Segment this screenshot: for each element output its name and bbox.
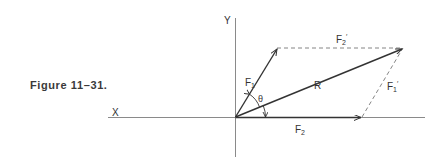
r-label: R [314,80,321,91]
parallelogram-diagram: X Y F1 F2 R F2′ F1′ θ [0,0,447,161]
vector-f1 [236,49,278,117]
x-axis-label: X [112,107,119,118]
angle-arc-r-f2 [263,106,265,117]
y-axis-label: Y [224,15,231,26]
f2-prime-label: F2′ [336,33,348,46]
theta-label: θ [258,94,263,104]
f2-label: F2 [295,124,305,136]
f1-prime-label: F1′ [387,80,399,93]
f1-label: F1 [245,77,255,89]
